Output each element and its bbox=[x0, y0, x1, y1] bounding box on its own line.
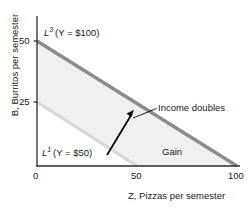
budget-line-chart: B, Burritos per semester 50 25 0 50 100 … bbox=[0, 0, 251, 212]
y-tick-label-50: 50 bbox=[19, 36, 30, 46]
x-tick-label-0: 0 bbox=[33, 171, 38, 181]
curve-label-l1-paren: (Y = $50) bbox=[51, 147, 92, 158]
curve-label-l3: L3(Y = $100) bbox=[44, 27, 100, 38]
income-doubles-label: Income doubles bbox=[158, 103, 225, 113]
y-tick-label-25: 25 bbox=[19, 97, 30, 107]
gain-label: Gain bbox=[162, 147, 182, 157]
curve-label-l1: L1(Y = $50) bbox=[42, 147, 92, 158]
x-axis-title: Z, Pizzas per semester bbox=[128, 191, 225, 201]
x-tick-label-100: 100 bbox=[228, 171, 244, 181]
curve-label-l3-paren: (Y = $100) bbox=[53, 27, 99, 38]
x-tick-label-50: 50 bbox=[131, 171, 142, 181]
